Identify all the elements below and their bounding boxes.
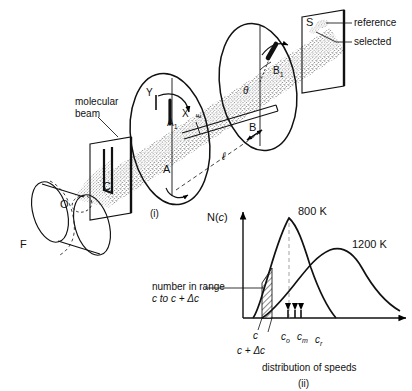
oven-hole-label: O: [60, 198, 69, 210]
figure-canvas: molecular beam C F O A Y X A1 B B1 θ ε ℓ…: [0, 0, 412, 391]
annotation-800k: 800 K: [298, 205, 327, 217]
panel-i-label: (i): [150, 208, 159, 219]
tick-leaders: [258, 318, 272, 332]
disc-a-slot-label: A1: [167, 117, 178, 130]
axis-tick-arrows: [288, 310, 301, 318]
chart-y-axis-label: N(c): [207, 211, 228, 223]
range-annotation-line1: number in range: [152, 281, 225, 292]
beam-label-line1: molecular: [75, 96, 118, 107]
disc-b-label: B: [249, 121, 256, 133]
disc-b-slot-label: B1: [273, 65, 284, 78]
tick-label-cm: cm: [297, 331, 308, 344]
callout-selected: selected: [354, 36, 391, 47]
disc-a-mark-y: Y: [146, 87, 153, 98]
collimator-plate: [90, 137, 131, 220]
theta-angle-label: θ: [243, 85, 248, 96]
collimator-label: C: [103, 180, 111, 192]
screen-label: S: [306, 16, 313, 28]
panel-ii-label: (ii): [298, 378, 309, 389]
disc-a-label: A: [163, 163, 170, 175]
curve-1200k: [262, 249, 400, 318]
molecular-beam-band: [96, 28, 345, 205]
tick-label-c-plus-dc: c + Δc: [237, 345, 265, 356]
callout-reference: reference: [354, 17, 396, 28]
beam-label-line2: beam: [75, 108, 100, 119]
range-annotation-line2: c to c + Δc: [152, 293, 199, 304]
axis-epsilon-label: ε: [193, 114, 203, 118]
disc-a-mark-x: X: [182, 108, 189, 119]
tick-label-c0: co: [281, 331, 290, 344]
annotation-1200k: 1200 K: [352, 238, 387, 250]
diagram-svg: [0, 0, 412, 391]
furnace-label: F: [20, 238, 27, 250]
separation-label: ℓ: [222, 150, 226, 162]
tick-label-c: c: [253, 330, 258, 341]
tick-label-cr: cr: [315, 334, 322, 347]
chart-caption: distribution of speeds: [262, 362, 357, 373]
